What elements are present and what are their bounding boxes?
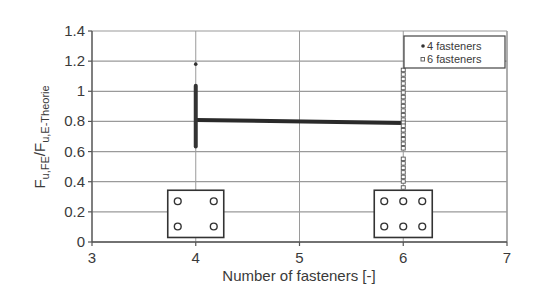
svg-text:4 fasteners: 4 fasteners [427,40,482,52]
x-tick-label: 3 [88,249,96,266]
six-fastener-layout-icon [374,190,432,237]
data-point-6 [401,186,405,190]
open-square-icon [421,58,425,62]
x-tick-label: 5 [295,249,303,266]
x-tick-label: 4 [192,249,200,266]
x-axis-ticks: 34567 [88,242,511,266]
fastener-hole-icon [174,223,181,230]
y-tick-label: 0.2 [64,203,85,220]
data-point-6 [401,180,405,184]
data-point-4 [194,62,198,66]
data-point-6 [401,166,405,170]
y-tick-label: 0 [77,233,85,250]
data-point-6 [401,124,405,128]
data-point-6 [401,133,405,137]
svg-text:6 fasteners: 6 fasteners [427,53,482,65]
fastener-hole-icon [419,223,426,230]
data-point-6 [401,162,405,166]
plate-outline [168,190,224,237]
four-fastener-layout-icon [168,190,224,237]
y-tick-label: 1.4 [64,22,85,39]
filled-dot-icon [421,44,425,48]
data-point-6 [401,138,405,142]
data-point-6 [401,86,405,90]
y-axis-ticks: 00.20.40.60.811.21.4 [64,22,92,250]
data-point-6 [401,157,405,161]
data-point-6 [401,128,405,132]
data-point-6 [401,82,405,86]
legend-item-4-fasteners: 4 fasteners [421,40,482,52]
y-tick-label: 0.8 [64,112,85,129]
data-point-6 [401,68,405,72]
y-tick-label: 0.4 [64,173,85,190]
fastener-hole-icon [174,198,181,205]
data-point-6 [401,147,405,151]
y-tick-label: 1.2 [64,52,85,69]
data-point-6 [401,77,405,81]
data-point-6 [401,104,405,108]
fastener-hole-icon [210,198,217,205]
data-point-6 [401,100,405,104]
legend: 4 fasteners 6 fasteners [404,36,505,68]
scatter-chart: 00.20.40.60.811.21.4 34567 Number of fas… [0,0,536,307]
data-point-6 [401,113,405,117]
x-axis-title: Number of fasteners [-] [222,267,375,284]
mean-band-line [196,120,404,123]
legend-item-6-fasteners: 6 fasteners [421,53,482,65]
data-point-6 [401,95,405,99]
data-point-6 [401,91,405,95]
x-tick-label: 6 [399,249,407,266]
fastener-hole-icon [210,223,217,230]
fastener-hole-icon [400,223,407,230]
fastener-hole-icon [381,198,388,205]
data-point-6 [401,109,405,113]
mean-trend-band [196,120,404,123]
fastener-hole-icon [400,198,407,205]
fastener-hole-icon [419,198,426,205]
fastener-hole-icon [381,223,388,230]
y-tick-label: 1 [77,82,85,99]
data-point-6 [401,142,405,146]
y-axis-title: Fu,FE/Fu,E-Theorie [31,85,51,188]
y-tick-label: 0.6 [64,143,85,160]
x-tick-label: 7 [503,249,511,266]
four-fastener-column [194,84,198,149]
data-point-6 [401,175,405,179]
data-point-6 [401,171,405,175]
data-point-6 [401,73,405,77]
